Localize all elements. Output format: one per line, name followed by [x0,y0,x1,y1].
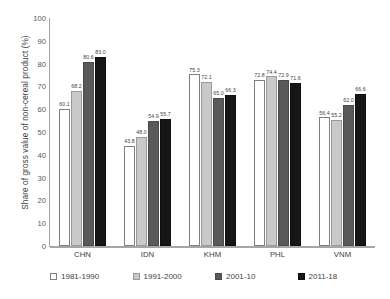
bar[interactable] [266,76,277,246]
y-axis-tick: 40 [22,150,46,159]
bar-wrap: 43.8 [124,18,135,246]
bar-value-label: 80.6 [83,55,93,60]
legend-swatch-icon [133,273,140,280]
bar[interactable] [278,80,289,246]
y-axis-tick: 60 [22,105,46,114]
x-axis-line [50,246,375,248]
x-axis-label-idn: IDN [115,250,180,259]
bar[interactable] [59,109,70,246]
y-axis-tick: 30 [22,173,46,182]
y-axis-tick-labels: 1009080706050403020100 [22,18,46,246]
bar[interactable] [254,80,265,246]
y-axis-tick: 90 [22,36,46,45]
bar[interactable] [95,57,106,246]
legend-label: 1991-2000 [144,272,182,281]
bar[interactable] [83,62,94,246]
bar-value-label: 72.9 [278,73,288,78]
legend-label: 2001-10 [226,272,255,281]
y-axis-tick: 0 [22,242,46,251]
bar-wrap: 75.3 [189,18,200,246]
x-axis-category-labels: CHNIDNKHMPHLVNM [50,250,375,259]
bar-group-vnm: 56.455.262.066.6 [310,18,375,246]
bar-value-label: 55.2 [331,113,341,118]
bar-wrap: 72.1 [201,18,212,246]
y-axis-tick: 20 [22,196,46,205]
bar[interactable] [331,120,342,246]
bar-wrap: 72.9 [278,18,289,246]
y-axis-tick: 70 [22,82,46,91]
bar[interactable] [213,98,224,246]
y-axis-tick: 80 [22,59,46,68]
bar-group-khm: 75.372.165.066.3 [180,18,245,246]
bar[interactable] [189,74,200,246]
bar[interactable] [71,91,82,246]
bar[interactable] [201,82,212,246]
y-axis-tick: 50 [22,128,46,137]
bar-wrap: 55.7 [160,18,171,246]
bar-wrap: 48.0 [136,18,147,246]
bar-value-label: 56.4 [319,111,329,116]
bar-value-label: 55.7 [160,112,170,117]
bar[interactable] [355,94,366,246]
bar[interactable] [290,83,301,246]
bar-value-label: 72.1 [201,75,211,80]
legend-item-2011-18[interactable]: 2011-18 [298,272,381,281]
y-axis-tick: 100 [22,14,46,23]
bar-wrap: 80.6 [83,18,94,246]
plot-area: 60.168.280.683.043.848.054.955.775.372.1… [50,18,375,246]
legend-label: 1981-1990 [61,272,99,281]
bar-wrap: 68.2 [71,18,82,246]
bar-wrap: 62.0 [343,18,354,246]
legend-label: 2011-18 [309,272,338,281]
bar-value-label: 75.3 [189,68,199,73]
bar-wrap: 71.6 [290,18,301,246]
x-axis-label-phl: PHL [245,250,310,259]
bar[interactable] [124,146,135,246]
legend-item-2001-10[interactable]: 2001-10 [215,272,298,281]
bar-wrap: 55.2 [331,18,342,246]
bar[interactable] [136,137,147,246]
bar-group-idn: 43.848.054.955.7 [115,18,180,246]
bar[interactable] [319,117,330,246]
bar-value-label: 54.9 [148,114,158,119]
bar[interactable] [160,119,171,246]
bar-wrap: 66.3 [225,18,236,246]
x-axis-label-chn: CHN [50,250,115,259]
x-axis-label-khm: KHM [180,250,245,259]
bar-value-label: 72.8 [254,73,264,78]
bar-value-label: 48.0 [136,130,146,135]
x-axis-label-vnm: VNM [310,250,375,259]
legend-swatch-icon [215,273,222,280]
bar-value-label: 68.2 [71,84,81,89]
bar-value-label: 83.0 [95,50,105,55]
bar-group-phl: 72.874.472.971.6 [245,18,310,246]
bar-value-label: 43.8 [124,139,134,144]
chart-legend: 1981-19901991-20002001-102011-18 [50,272,380,281]
bar-wrap: 60.1 [59,18,70,246]
bar-wrap: 56.4 [319,18,330,246]
bar-value-label: 65.0 [213,91,223,96]
bar-wrap: 66.6 [355,18,366,246]
bar-value-label: 66.3 [225,88,235,93]
bar[interactable] [148,121,159,246]
bar-value-label: 71.6 [290,76,300,81]
bar-wrap: 65.0 [213,18,224,246]
bar-wrap: 83.0 [95,18,106,246]
bar-wrap: 72.8 [254,18,265,246]
bar[interactable] [225,95,236,246]
legend-swatch-icon [50,273,57,280]
bar-value-label: 62.0 [343,98,353,103]
bar-wrap: 54.9 [148,18,159,246]
legend-item-1981-1990[interactable]: 1981-1990 [50,272,133,281]
bar-wrap: 74.4 [266,18,277,246]
legend-item-1991-2000[interactable]: 1991-2000 [133,272,216,281]
bar-value-label: 66.6 [355,87,365,92]
bar[interactable] [343,105,354,246]
bar-value-label: 60.1 [59,102,69,107]
bar-value-label: 74.4 [266,70,276,75]
bar-group-chn: 60.168.280.683.0 [50,18,115,246]
bar-chart: Share of gross value of non-cereal produ… [0,0,390,299]
y-axis-tick: 10 [22,219,46,228]
legend-swatch-icon [298,273,305,280]
